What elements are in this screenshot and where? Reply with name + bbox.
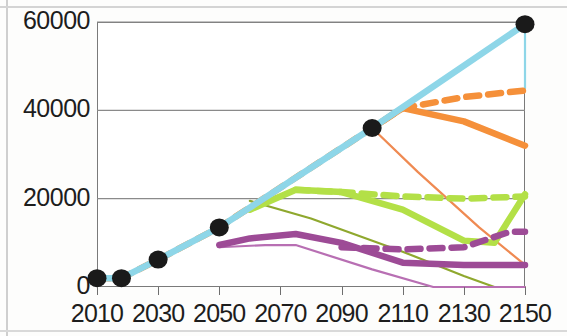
x-axis-tick	[158, 287, 159, 295]
data-point-marker	[149, 251, 168, 269]
y-axis-label-0: 0	[14, 271, 90, 300]
data-point-marker	[516, 15, 535, 33]
x-axis-label-2130: 2130	[432, 299, 496, 328]
page-edge-left	[6, 0, 8, 336]
x-axis-tick	[280, 287, 281, 295]
x-axis-label-2090: 2090	[310, 299, 374, 328]
data-point-marker	[363, 119, 382, 137]
x-axis-tick	[97, 287, 98, 295]
x-axis-label-2110: 2110	[371, 299, 435, 328]
data-point-marker	[88, 269, 107, 287]
x-axis-label-2010: 2010	[65, 299, 129, 328]
x-axis-label-2070: 2070	[248, 299, 312, 328]
y-axis-label-40000: 40000	[14, 94, 90, 123]
x-axis-tick	[464, 287, 465, 295]
x-axis-tick	[403, 287, 404, 295]
x-axis-label-2050: 2050	[187, 299, 251, 328]
x-axis-tick	[525, 287, 526, 295]
series-line	[296, 190, 525, 199]
page-edge-bottom	[0, 330, 567, 332]
x-axis-label-2030: 2030	[126, 299, 190, 328]
plot-area	[97, 22, 525, 287]
y-axis-label-20000: 20000	[14, 183, 90, 212]
x-axis-tick	[219, 287, 220, 295]
x-axis-tick	[342, 287, 343, 295]
chart-figure: 60000 40000 20000 0 TWh 2010203020502070…	[0, 0, 567, 336]
data-point-marker	[112, 269, 131, 287]
x-axis-label-2150: 2150	[493, 299, 557, 328]
chart-series-svg	[97, 22, 525, 287]
y-axis-label-60000: 60000	[14, 6, 90, 35]
data-point-marker	[210, 218, 229, 236]
